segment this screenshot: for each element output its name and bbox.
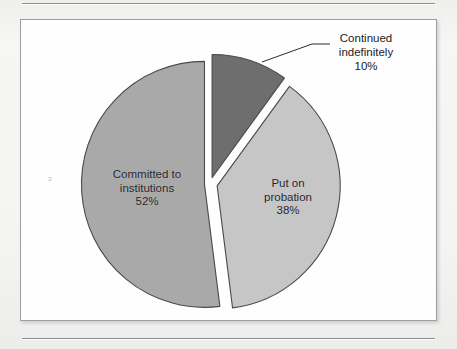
label-continued-line1: Continued bbox=[318, 31, 414, 45]
label-committed-line1: Committed to bbox=[92, 168, 202, 182]
label-continued-line2: indefinitely bbox=[318, 45, 414, 59]
label-put-on-probation: Put on probation 38% bbox=[243, 177, 333, 218]
horizontal-rule-top bbox=[22, 3, 435, 4]
scan-speck-artifact: ɔ bbox=[48, 176, 52, 181]
label-committed-percent: 52% bbox=[92, 195, 202, 209]
label-probation-line2: probation bbox=[243, 191, 333, 205]
label-continued-percent: 10% bbox=[318, 59, 414, 73]
label-probation-percent: 38% bbox=[243, 204, 333, 218]
label-committed-line2: institutions bbox=[92, 182, 202, 196]
horizontal-rule-bottom bbox=[22, 338, 435, 339]
label-committed-to-institutions: Committed to institutions 52% bbox=[92, 168, 202, 209]
label-probation-line1: Put on bbox=[243, 177, 333, 191]
label-continued-indefinitely: Continued indefinitely 10% bbox=[318, 31, 414, 73]
